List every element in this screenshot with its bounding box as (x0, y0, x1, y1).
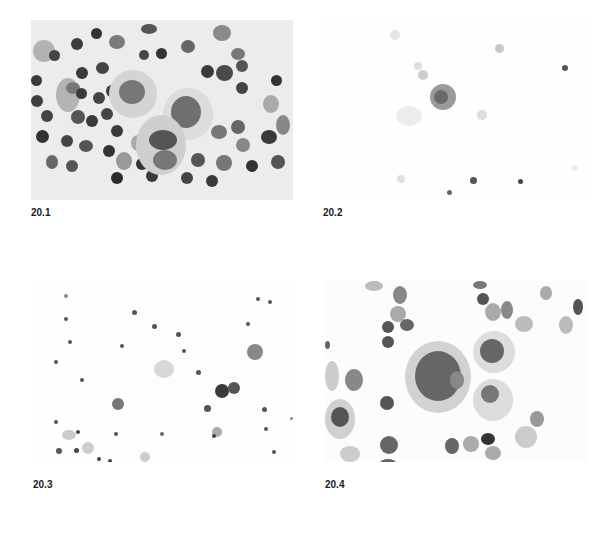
micrograph-panel-20-3 (32, 282, 296, 462)
panel-label-20-2: 20.2 (323, 207, 342, 218)
micrograph-panel-20-4 (325, 281, 588, 462)
panel-label-20-4: 20.4 (325, 479, 344, 490)
panel-label-20-3: 20.3 (33, 479, 52, 490)
panel-label-20-1: 20.1 (31, 207, 50, 218)
micrograph-panel-20-1 (31, 20, 293, 200)
micrograph-panel-20-2 (322, 20, 588, 200)
dark-binucleate-cell (215, 384, 229, 398)
